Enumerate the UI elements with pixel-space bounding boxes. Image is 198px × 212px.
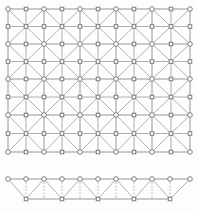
main-mesh-nodes (6, 7, 193, 155)
mesh-midedge-node (60, 77, 64, 81)
mesh-midedge-node (132, 7, 136, 11)
mesh-corner-node (78, 42, 83, 47)
mesh-center-node (24, 132, 28, 136)
mesh-corner-node (78, 150, 83, 155)
truss-strip-droppers (26, 179, 170, 199)
mesh-midedge-node (188, 132, 192, 136)
mesh-midedge-node (96, 77, 100, 81)
truss-bottom-node (60, 197, 64, 201)
mesh-midedge-node (24, 77, 28, 81)
truss-top-node (188, 177, 193, 182)
mesh-center-node (132, 132, 136, 136)
mesh-midedge-node (114, 25, 118, 29)
mesh-midedge-node (60, 7, 64, 11)
mesh-center-node (96, 60, 100, 64)
truss-strip-edges (8, 179, 190, 199)
truss-bottom-node (168, 197, 172, 201)
mesh-midedge-node (96, 7, 100, 11)
mesh-midedge-node (42, 95, 46, 99)
truss-bottom-node (24, 197, 28, 201)
mesh-midedge-node (132, 113, 136, 117)
truss-brace (8, 179, 26, 199)
mesh-corner-node (78, 77, 83, 82)
mesh-center-node (132, 60, 136, 64)
mesh-center-node (169, 95, 173, 99)
mesh-midedge-node (60, 42, 64, 46)
mesh-center-node (132, 95, 136, 99)
mesh-center-node (60, 95, 64, 99)
mesh-corner-node (78, 113, 83, 118)
truss-top-node (114, 177, 119, 182)
mesh-midedge-node (114, 95, 118, 99)
mesh-midedge-node (6, 132, 10, 136)
mesh-midedge-node (78, 132, 82, 136)
mesh-corner-node (188, 77, 193, 82)
mesh-corner-node (114, 77, 119, 82)
mesh-corner-node (42, 113, 47, 118)
mesh-midedge-node (150, 95, 154, 99)
mesh-midedge-node (42, 132, 46, 136)
truss-brace (44, 179, 62, 199)
mesh-center-node (96, 25, 100, 29)
mesh-midedge-node (78, 25, 82, 29)
mesh-center-node (96, 132, 100, 136)
truss-top-node (24, 177, 29, 182)
mesh-midedge-node (188, 60, 192, 64)
truss-top-node (168, 177, 173, 182)
truss-top-node (132, 177, 137, 182)
mesh-midedge-node (96, 42, 100, 46)
mesh-midedge-node (96, 113, 100, 117)
truss-top-node (60, 177, 65, 182)
truss-brace (98, 179, 116, 199)
truss-brace (134, 179, 152, 199)
mesh-midedge-node (150, 132, 154, 136)
mesh-center-node (24, 25, 28, 29)
mesh-center-node (24, 95, 28, 99)
mesh-midedge-node (24, 150, 28, 154)
mesh-center-node (169, 60, 173, 64)
mesh-corner-node (6, 77, 11, 82)
mesh-center-node (96, 95, 100, 99)
mesh-corner-node (114, 113, 119, 118)
mesh-midedge-node (96, 150, 100, 154)
mesh-corner-node (150, 77, 155, 82)
mesh-midedge-node (169, 113, 173, 117)
mesh-midedge-node (6, 95, 10, 99)
truss-top-node (42, 177, 47, 182)
mesh-midedge-node (60, 150, 64, 154)
mesh-corner-node (78, 7, 83, 12)
truss-strip-nodes (6, 177, 193, 201)
mesh-corner-node (6, 7, 11, 12)
truss-bottom-node (96, 197, 100, 201)
mesh-corner-node (6, 42, 11, 47)
mesh-center-node (24, 60, 28, 64)
mesh-midedge-node (169, 150, 173, 154)
mesh-midedge-node (114, 132, 118, 136)
truss-brace (62, 179, 80, 199)
mesh-corner-node (42, 7, 47, 12)
mesh-midedge-node (169, 42, 173, 46)
mesh-midedge-node (132, 42, 136, 46)
truss-brace (26, 179, 44, 199)
mesh-corner-node (42, 150, 47, 155)
mesh-corner-node (6, 150, 11, 155)
mesh-corner-node (188, 7, 193, 12)
mesh-corner-node (150, 42, 155, 47)
truss-top-node (150, 177, 155, 182)
mesh-corner-node (114, 42, 119, 47)
mesh-corner-node (188, 42, 193, 47)
truss-brace (116, 179, 134, 199)
mesh-midedge-node (150, 25, 154, 29)
mesh-corner-node (150, 113, 155, 118)
mesh-midedge-node (150, 60, 154, 64)
mesh-midedge-node (24, 42, 28, 46)
mesh-center-node (60, 25, 64, 29)
mesh-center-node (169, 132, 173, 136)
mesh-center-node (132, 25, 136, 29)
mesh-midedge-node (6, 60, 10, 64)
mesh-midedge-node (78, 60, 82, 64)
mesh-midedge-node (169, 7, 173, 11)
mesh-midedge-node (169, 77, 173, 81)
mesh-midedge-node (188, 25, 192, 29)
mesh-corner-node (42, 42, 47, 47)
